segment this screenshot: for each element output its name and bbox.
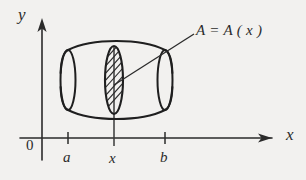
- barrel-left-top-join: [61, 50, 68, 73]
- x-axis-label: x: [286, 126, 294, 143]
- area-function-annotation: A = A ( x ): [196, 23, 262, 38]
- tick-label-b: b: [160, 150, 168, 165]
- barrel-right-bottom-join: [165, 87, 172, 110]
- barrel-right-top-join: [165, 50, 172, 73]
- barrel-left-bottom-join: [61, 87, 68, 110]
- tick-label-a: a: [63, 150, 71, 165]
- axes-group: [20, 18, 272, 160]
- y-axis-label: y: [18, 6, 26, 23]
- tick-label-x: x: [109, 151, 116, 166]
- figure-canvas: y x 0 a x b A = A ( x ): [0, 0, 306, 180]
- barrel-solid-group: [61, 41, 173, 119]
- origin-label: 0: [26, 138, 34, 153]
